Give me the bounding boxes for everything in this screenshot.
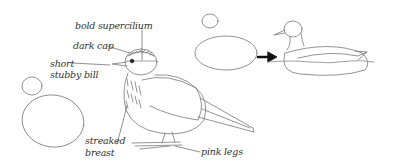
label-streaked-line1: streaked bbox=[85, 135, 125, 146]
sketch-illustration bbox=[0, 0, 397, 163]
small-construction-circle-right bbox=[202, 14, 218, 28]
label-dark-cap: dark cap bbox=[73, 40, 114, 51]
label-short-bill-line2: stubby bill bbox=[50, 69, 98, 80]
large-construction-oval-right bbox=[195, 36, 257, 70]
bird-head bbox=[112, 49, 157, 75]
duck-sketch bbox=[268, 21, 374, 75]
leader-short-bill bbox=[72, 63, 110, 65]
small-construction-circle-left bbox=[22, 77, 42, 95]
label-streaked-line2: breast bbox=[85, 147, 114, 158]
label-short-bill-line1: short bbox=[50, 58, 74, 69]
drawing-canvas: bold supercilium dark cap short stubby b… bbox=[0, 0, 397, 163]
bird-legs bbox=[132, 132, 182, 149]
right-arrow-icon bbox=[258, 52, 277, 62]
leader-pink-legs bbox=[175, 146, 200, 152]
label-pink-legs: pink legs bbox=[201, 146, 243, 157]
label-bold-supercilium: bold supercilium bbox=[75, 20, 153, 31]
large-construction-oval-left bbox=[19, 91, 88, 151]
bird-body bbox=[124, 73, 254, 134]
